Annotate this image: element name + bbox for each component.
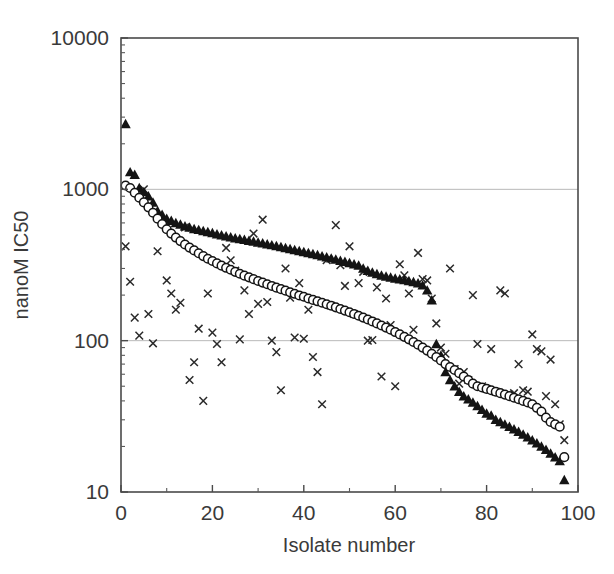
data-point-cross [199, 397, 207, 405]
data-point-cross [487, 345, 495, 353]
data-point-cross [163, 277, 171, 285]
data-point-cross [369, 336, 377, 344]
y-tick-label: 10 [86, 480, 109, 503]
data-point-cross [341, 282, 349, 290]
data-point-cross [382, 295, 390, 303]
figure-container: 10100100010000 020406080100 Isolate numb… [0, 0, 614, 574]
data-point-cross [167, 290, 175, 298]
x-tick-label: 40 [292, 501, 315, 524]
data-point-cross [433, 320, 441, 328]
data-point-triangle [559, 475, 569, 484]
data-point-cross [172, 306, 180, 314]
data-point-cross [346, 243, 354, 251]
data-point-circle [555, 422, 564, 431]
x-tick-label: 100 [560, 501, 595, 524]
data-point-cross [314, 368, 322, 376]
data-point-cross [282, 265, 290, 273]
data-point-cross [474, 340, 482, 348]
data-point-cross [410, 326, 418, 334]
data-point-cross [135, 332, 143, 340]
data-point-cross [263, 298, 271, 306]
data-point-circle [560, 453, 569, 462]
data-point-cross [355, 279, 363, 287]
data-point-cross [547, 356, 555, 364]
data-point-cross [497, 287, 505, 295]
data-point-cross [551, 400, 559, 408]
data-point-cross [469, 291, 477, 299]
data-point-cross [222, 244, 230, 252]
data-point-cross [391, 382, 399, 390]
data-point-cross [241, 287, 249, 295]
data-point-cross [209, 329, 217, 337]
y-tick-label: 1000 [62, 177, 109, 200]
data-point-cross [373, 284, 381, 292]
data-point-cross [126, 278, 134, 286]
data-point-cross [305, 306, 313, 314]
data-point-cross [446, 265, 454, 273]
y-axis-tick-labels: 10100100010000 [51, 26, 109, 503]
x-tick-label: 60 [384, 501, 407, 524]
data-point-cross [250, 230, 258, 238]
data-point-cross [414, 249, 422, 257]
series-triangle-markers [120, 119, 569, 484]
data-point-cross [186, 376, 194, 384]
y-tick-label: 10000 [51, 26, 109, 49]
data-point-cross [405, 290, 413, 298]
data-point-cross [195, 325, 203, 333]
y-axis-title: nanoM IC50 [10, 211, 32, 320]
data-point-cross [177, 299, 185, 307]
data-point-cross [131, 314, 139, 322]
y-tick-label: 100 [74, 329, 109, 352]
data-point-cross [542, 392, 550, 400]
data-point-cross [259, 216, 267, 224]
x-axis-tick-labels: 020406080100 [115, 501, 595, 524]
data-point-cross [277, 386, 285, 394]
data-point-cross [190, 358, 198, 366]
data-point-cross [501, 290, 509, 298]
x-tick-label: 80 [475, 501, 498, 524]
x-axis-title: Isolate number [283, 534, 416, 556]
data-point-cross [378, 373, 386, 381]
x-tick-label: 20 [201, 501, 224, 524]
data-point-cross [529, 331, 537, 339]
data-point-cross [218, 358, 226, 366]
x-tick-label: 0 [115, 501, 127, 524]
data-point-triangle [120, 119, 130, 128]
data-point-cross [515, 360, 523, 368]
data-point-cross [236, 336, 244, 344]
data-point-cross [332, 221, 340, 229]
data-point-cross [309, 353, 317, 361]
data-point-cross [295, 279, 303, 287]
data-point-cross [204, 290, 212, 298]
data-point-cross [273, 348, 281, 356]
scatter-plot: 10100100010000 020406080100 Isolate numb… [0, 0, 614, 574]
data-point-triangle [427, 295, 437, 304]
data-point-cross [227, 256, 235, 264]
data-point-cross [213, 340, 221, 348]
data-point-cross [560, 436, 568, 444]
data-point-cross [291, 334, 299, 342]
data-point-cross [300, 335, 308, 343]
data-point-cross [245, 310, 253, 318]
data-point-cross [154, 247, 162, 255]
data-point-cross [318, 400, 326, 408]
data-point-cross [254, 300, 262, 308]
data-point-cross [145, 310, 153, 318]
data-point-cross [396, 260, 404, 268]
